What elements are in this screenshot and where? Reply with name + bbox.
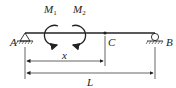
roller-support-b: [146, 33, 163, 44]
pin-support-a: [16, 33, 33, 44]
label-l: L: [86, 76, 93, 88]
point-c-marker: [103, 31, 106, 34]
label-m1: M1: [43, 3, 57, 17]
label-a: A: [9, 36, 17, 48]
moment-m1-arrow-icon: [44, 25, 58, 45]
label-m2: M2: [72, 3, 86, 17]
beam-diagram: M1 M2 A B C x L: [0, 0, 176, 88]
label-x: x: [61, 49, 67, 61]
label-c: C: [108, 36, 116, 48]
moment-m2-arrow-icon: [72, 25, 86, 45]
label-b: B: [166, 36, 173, 48]
